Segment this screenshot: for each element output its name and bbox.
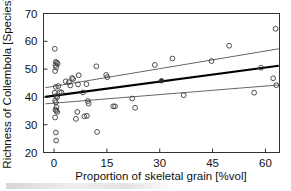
x-tick-label: 15 bbox=[101, 157, 114, 169]
y-axis-title: Richness of Collembola [Species] bbox=[1, 0, 13, 169]
y-tick-label: 70 bbox=[25, 8, 38, 20]
y-tick-label: 30 bbox=[25, 119, 38, 131]
y-tick-label: 50 bbox=[25, 63, 38, 75]
mean-data-point bbox=[159, 79, 163, 83]
figure-container: 203040506070 015304560 Proportion of ske… bbox=[0, 0, 291, 191]
y-tick-label: 20 bbox=[25, 147, 38, 159]
y-tick-label: 60 bbox=[25, 35, 38, 47]
scatter-plot: 203040506070 015304560 Proportion of ske… bbox=[0, 0, 291, 191]
x-tick-label: 60 bbox=[259, 157, 272, 169]
y-tick-label: 40 bbox=[25, 91, 38, 103]
x-axis-title: Proportion of skeletal grain [%vol] bbox=[75, 170, 246, 182]
x-tick-label: 30 bbox=[153, 157, 166, 169]
x-tick-label: 0 bbox=[51, 157, 57, 169]
mean-point-marker bbox=[159, 79, 163, 83]
x-tick-label: 45 bbox=[206, 157, 219, 169]
